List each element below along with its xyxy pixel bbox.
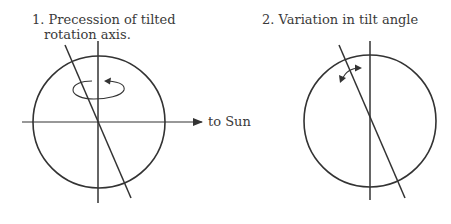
panel-1-precession [22,41,202,203]
panel-1-title-line2: rotation axis. [44,27,131,42]
to-sun-label: to Sun [208,114,251,129]
panel-1-title: 1. Precession of tilted [32,12,176,27]
panel-2-tilt-variation [304,41,436,200]
diagram-canvas: 1. Precession of tilted rotation axis. t… [0,0,451,224]
tilted-axis-2 [339,45,405,198]
tilt-arrowhead-left-icon [339,75,346,83]
panel-2-title: 2. Variation in tilt angle [262,12,418,27]
tilt-arrowhead-right-icon [355,65,362,72]
precession-arrowhead-icon [104,78,111,85]
